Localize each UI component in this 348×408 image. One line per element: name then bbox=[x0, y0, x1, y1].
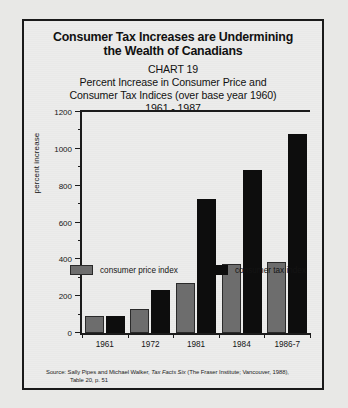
y-axis-tick-label: 800 bbox=[59, 181, 72, 190]
y-axis-tick-label: 1000 bbox=[54, 144, 72, 153]
bar-1984-consumer-tax-index bbox=[243, 170, 262, 333]
chart-area: percent increase 02004006008001000120019… bbox=[34, 107, 316, 365]
y-axis-tick-label: 0 bbox=[68, 329, 72, 338]
scan-header-text bbox=[0, 0, 348, 10]
y-axis-tick bbox=[78, 314, 82, 315]
x-axis-tick bbox=[173, 333, 174, 338]
chart-subtitle-line-2: Percent Increase in Consumer Price and bbox=[24, 76, 322, 89]
y-axis-tick-label: 600 bbox=[59, 218, 72, 227]
source-publication-title: Tax Facts Six bbox=[151, 369, 186, 375]
bar-1981-consumer-price-index bbox=[176, 283, 195, 333]
source-line-2: Table 20, p. 51 bbox=[70, 376, 314, 384]
chart-page-frame: Consumer Tax Increases are Undermining t… bbox=[22, 19, 324, 390]
source-prefix: Source: Sally Pipes and Michael Walker, bbox=[46, 369, 151, 375]
x-axis-label-1972: 1972 bbox=[141, 340, 159, 349]
y-axis-tick bbox=[78, 203, 82, 204]
legend-item-consumer-tax-index: consumer tax index bbox=[205, 265, 306, 275]
title-block: Consumer Tax Increases are Undermining t… bbox=[24, 30, 322, 115]
x-axis-tick bbox=[82, 333, 83, 338]
chart-legend: consumer price index consumer tax index bbox=[70, 265, 306, 275]
y-axis-tick bbox=[78, 277, 82, 278]
chart-title-line-1: Consumer Tax Increases are Undermining bbox=[24, 30, 322, 44]
bar-group-1981 bbox=[176, 112, 216, 333]
bar-group-1961 bbox=[85, 112, 125, 333]
y-axis-tick bbox=[75, 295, 82, 296]
bar-group-1972 bbox=[130, 112, 170, 333]
source-line-1: Source: Sally Pipes and Michael Walker, … bbox=[46, 368, 314, 376]
legend-swatch-consumer-price-index bbox=[70, 265, 93, 275]
bar-1972-consumer-price-index bbox=[130, 309, 149, 333]
x-axis-tick bbox=[128, 333, 129, 338]
legend-label-consumer-tax-index: consumer tax index bbox=[235, 266, 306, 275]
bar-group-1984 bbox=[222, 112, 262, 333]
legend-swatch-consumer-tax-index bbox=[205, 265, 228, 275]
x-axis-label-1981: 1981 bbox=[187, 340, 205, 349]
bar-1961-consumer-price-index bbox=[85, 316, 104, 333]
y-axis-tick-label: 400 bbox=[59, 255, 72, 264]
bar-1972-consumer-tax-index bbox=[151, 290, 170, 333]
source-suffix: (The Fraser Institute; Vancouver, 1988), bbox=[186, 369, 289, 375]
bar-1961-consumer-tax-index bbox=[106, 316, 125, 333]
y-axis-tick bbox=[75, 332, 82, 333]
y-axis-tick bbox=[78, 166, 82, 167]
y-axis-tick bbox=[75, 111, 82, 112]
x-axis-tick bbox=[264, 333, 265, 338]
source-note: Source: Sally Pipes and Michael Walker, … bbox=[46, 368, 314, 384]
y-axis-tick bbox=[78, 240, 82, 241]
legend-label-consumer-price-index: consumer price index bbox=[100, 266, 178, 275]
y-axis-tick bbox=[75, 148, 82, 149]
x-axis-label-1961: 1961 bbox=[96, 340, 114, 349]
y-axis-tick bbox=[75, 258, 82, 259]
x-axis-tick bbox=[219, 333, 220, 338]
x-axis-label-1984: 1984 bbox=[232, 340, 250, 349]
bar-1986-7-consumer-tax-index bbox=[288, 134, 307, 333]
y-axis-tick-label: 200 bbox=[59, 292, 72, 301]
y-axis-tick bbox=[75, 185, 82, 186]
chart-subtitle-line-3: Consumer Tax Indices (over base year 196… bbox=[24, 89, 322, 102]
bar-group-1986-7 bbox=[267, 112, 307, 333]
chart-number-label: CHART 19 bbox=[24, 63, 322, 76]
chart-title-line-2: the Wealth of Canadians bbox=[24, 44, 322, 58]
y-axis-tick bbox=[78, 129, 82, 130]
x-axis-tick bbox=[310, 333, 311, 338]
y-axis-tick bbox=[75, 222, 82, 223]
legend-item-consumer-price-index: consumer price index bbox=[70, 265, 178, 275]
x-axis-label-1986-7: 1986-7 bbox=[274, 340, 300, 349]
y-axis-label: percent increase bbox=[32, 123, 41, 203]
plot-area: 0200400600800100012001961197219811984198… bbox=[80, 110, 310, 335]
y-axis-tick-label: 1200 bbox=[54, 108, 72, 117]
